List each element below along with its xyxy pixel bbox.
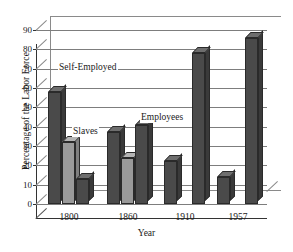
bar-side xyxy=(258,30,263,201)
y-tick-mark xyxy=(33,88,36,89)
y-tick-mark xyxy=(33,107,36,108)
y-tick-label: 20 xyxy=(23,161,32,170)
series-annotation: Self-Employed xyxy=(58,62,118,73)
bar xyxy=(217,177,230,204)
bar xyxy=(164,161,177,204)
bar-face xyxy=(135,125,148,204)
y-tick-label: 80 xyxy=(23,45,32,54)
y-tick-label: 40 xyxy=(23,122,32,131)
y-tick-mark xyxy=(33,30,36,31)
y-tick-label: 60 xyxy=(23,84,32,93)
bar-side xyxy=(148,117,153,201)
series-annotation: Slaves xyxy=(72,126,99,137)
bar-face xyxy=(107,132,120,204)
y-tick-label: 70 xyxy=(23,64,32,73)
bar-side xyxy=(205,46,210,201)
plot-top-edge xyxy=(50,16,281,17)
bar xyxy=(135,125,148,204)
bar xyxy=(192,53,205,204)
x-tick-label: 1860 xyxy=(119,212,138,222)
bar-chart: Percentage of the Labor Force 0102030405… xyxy=(0,0,293,252)
gridline xyxy=(36,49,267,50)
bar-face xyxy=(121,158,134,204)
bar-face xyxy=(62,142,75,204)
bar xyxy=(121,158,134,204)
bar-side xyxy=(177,154,182,201)
y-tick-mark xyxy=(33,69,36,70)
bar xyxy=(62,142,75,204)
bar-face xyxy=(164,161,177,204)
plot-area: 0102030405060708090 Self-EmployedSlavesE… xyxy=(36,16,281,204)
x-tick-label: 1800 xyxy=(60,212,79,222)
gridline xyxy=(36,107,267,108)
bar xyxy=(48,92,61,204)
bar-face xyxy=(76,179,89,204)
x-tick-label: 1910 xyxy=(176,212,195,222)
y-tick-mark xyxy=(33,127,36,128)
gridline xyxy=(36,204,267,205)
y-tick-label: 10 xyxy=(23,180,32,189)
y-tick-mark xyxy=(33,185,36,186)
bar xyxy=(245,38,258,204)
series-annotation: Employees xyxy=(140,112,184,123)
bar xyxy=(107,132,120,204)
bar-face xyxy=(192,53,205,204)
plot-front-face: 0102030405060708090 Self-EmployedSlavesE… xyxy=(36,30,267,204)
y-tick-mark xyxy=(33,49,36,50)
y-tick-mark xyxy=(33,146,36,147)
bar-face xyxy=(48,92,61,204)
y-tick-label: 50 xyxy=(23,103,32,112)
y-tick-mark xyxy=(33,165,36,166)
bar-face xyxy=(245,38,258,204)
bar xyxy=(76,179,89,204)
y-axis-line xyxy=(36,44,37,219)
y-tick-mark xyxy=(33,204,36,205)
x-axis-title: Year xyxy=(0,228,293,238)
x-tick-label: 1957 xyxy=(229,212,248,222)
y-tick-label: 90 xyxy=(23,26,32,35)
y-tick-label: 30 xyxy=(23,142,32,151)
bar-face xyxy=(217,177,230,204)
gridline xyxy=(36,88,267,89)
y-tick-label: 0 xyxy=(28,200,33,209)
gridline xyxy=(36,30,267,31)
